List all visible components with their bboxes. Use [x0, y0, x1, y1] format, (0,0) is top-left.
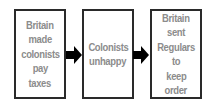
arrow-right-icon: [133, 46, 149, 64]
box-text-line: colonists: [21, 47, 59, 62]
box-text-line: order: [165, 83, 187, 98]
box-text-line: Britain: [162, 11, 190, 26]
box-text-line: pay: [32, 61, 47, 76]
flow-box-colonists-unhappy: Colonists unhappy: [82, 9, 134, 99]
box-text-line: taxes: [29, 76, 51, 91]
box-text-line: made: [28, 32, 51, 47]
box-text-line: sent: [167, 25, 185, 40]
box-text-line: keep: [166, 69, 186, 84]
flow-box-britain-taxes: Britain made colonists pay taxes: [14, 9, 66, 99]
box-text-line: unhappy: [89, 54, 126, 69]
box-text-line: to: [172, 54, 180, 69]
box-text-line: Colonists: [88, 40, 128, 55]
arrow-right-icon: [66, 46, 82, 64]
box-text-line: Britain: [26, 18, 54, 33]
box-text-line: Regulars: [157, 40, 195, 55]
flow-box-britain-regulars: Britain sent Regulars to keep order: [150, 9, 202, 99]
